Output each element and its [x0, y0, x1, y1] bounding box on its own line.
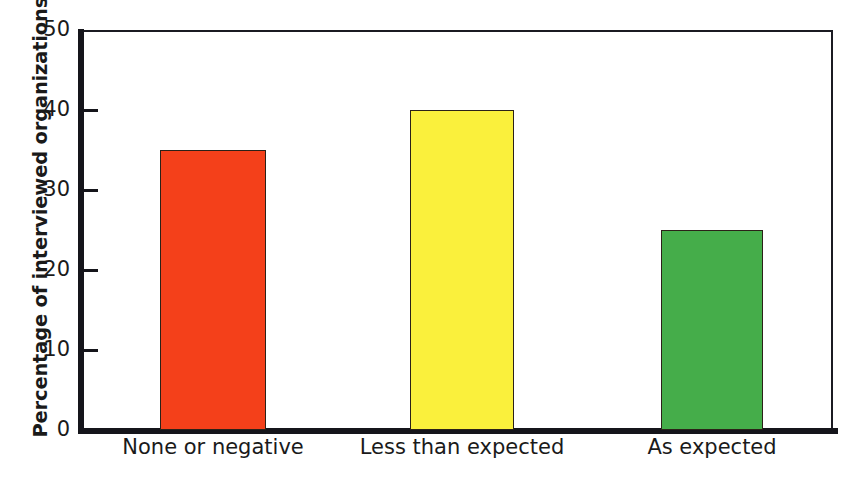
bar: [410, 110, 514, 430]
y-tick-mark: [84, 109, 98, 112]
x-axis-category-label: As expected: [562, 437, 855, 458]
y-axis-title: Percentage of interviewed organizations: [29, 18, 52, 438]
y-tick-label: 50: [28, 19, 70, 40]
y-tick-label: 30: [28, 179, 70, 200]
y-tick-label: 20: [28, 259, 70, 280]
bar-chart: Percentage of interviewed organizations …: [0, 0, 855, 482]
y-tick-mark: [84, 349, 98, 352]
y-tick-label: 10: [28, 339, 70, 360]
y-axis-line: [78, 29, 84, 432]
y-tick-label: 40: [28, 99, 70, 120]
y-tick-mark: [84, 269, 98, 272]
bar: [661, 230, 763, 430]
y-tick-mark: [84, 189, 98, 192]
bar: [160, 150, 266, 430]
